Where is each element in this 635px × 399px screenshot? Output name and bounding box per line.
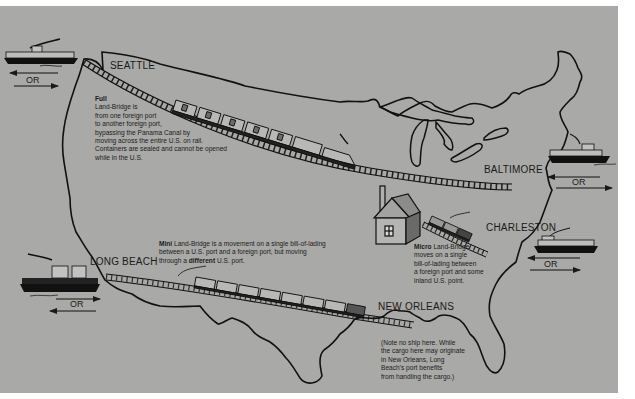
- caption-line: from handling the cargo.): [381, 373, 454, 380]
- lake-erie: [451, 143, 482, 162]
- caption-line: to another foreign port,: [95, 120, 162, 127]
- or-label: OR: [26, 75, 40, 85]
- land-bridge-map: [0, 0, 635, 399]
- caption-line: through a: [159, 257, 189, 264]
- train-icon: [428, 212, 472, 242]
- port-label-new-orleans: NEW ORLEANS: [378, 301, 454, 312]
- caption-line: moves on a single: [414, 251, 467, 258]
- port-label-baltimore: BALTIMORE: [484, 164, 543, 175]
- lake-huron: [436, 122, 453, 150]
- or-label: OR: [70, 299, 84, 309]
- caption-line: between a U.S. port and a foreign port, …: [159, 248, 307, 255]
- caption-title: Full: [95, 95, 107, 102]
- ship-icon: [4, 39, 78, 66]
- micro-land-bridge-caption: Micro Land-Bridge moves on a single bill…: [414, 243, 484, 285]
- caption-line: Beach's port benefits: [381, 364, 442, 371]
- port-label-long-beach: LONG BEACH: [90, 256, 158, 267]
- caption-title: Mini: [159, 240, 172, 247]
- ship-icon: [548, 134, 616, 165]
- new-orleans-note: (Note no ship here. While the cargo here…: [381, 339, 465, 381]
- mini-land-bridge-caption: Mini Land-Bridge is a movement on a sing…: [159, 240, 326, 265]
- port-label-seattle: SEATTLE: [110, 60, 155, 71]
- caption-line: bill-of-lading between: [414, 260, 476, 267]
- caption-line: in New Orleans, Long: [381, 356, 444, 363]
- train-icon: [178, 266, 365, 318]
- caption-line: Land-Bridge: [432, 243, 470, 250]
- caption-line: from one foreign port: [95, 112, 156, 119]
- or-label: OR: [544, 259, 558, 269]
- caption-line: Containers are sealed and cannot be open…: [95, 145, 227, 152]
- lake-michigan: [411, 120, 429, 166]
- lake-ontario: [484, 128, 508, 140]
- caption-emphasis: different: [189, 257, 215, 264]
- caption-line: inland U.S. point.: [414, 277, 464, 284]
- full-land-bridge-caption: Full Land-Bridge is from one foreign por…: [95, 95, 227, 162]
- caption-line: while in the U.S.: [95, 154, 143, 161]
- ship-icon: [20, 254, 100, 296]
- caption-title: Micro: [414, 243, 432, 250]
- caption-line: moving across the entire U.S. on rail.: [95, 137, 203, 144]
- caption-line: the cargo here may originate: [381, 347, 465, 354]
- or-label: OR: [572, 177, 586, 187]
- house-icon: [374, 186, 420, 244]
- caption-line: a foreign port and some: [414, 268, 484, 275]
- caption-line: bypassing the Panama Canal by: [95, 129, 190, 136]
- caption-line: Land-Bridge is a movement on a single bi…: [172, 240, 326, 247]
- caption-line: (Note no ship here. While: [381, 339, 455, 346]
- caption-line: U.S. port.: [215, 257, 245, 264]
- railroad-track-icon: [106, 274, 414, 328]
- caption-line: Land-Bridge is: [95, 103, 138, 110]
- port-label-charleston: CHARLESTON: [486, 222, 556, 233]
